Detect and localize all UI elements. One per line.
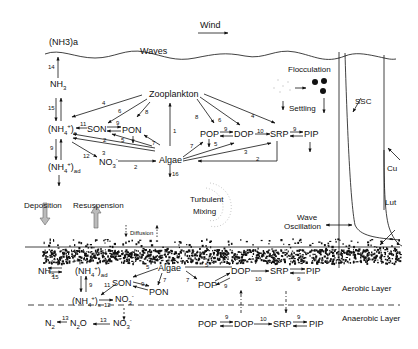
turbulent-label: Turbulent [190,195,224,204]
diffusion-label: Diffusion [130,230,153,237]
process-num: 12 [83,153,90,160]
sed-node-pon: PON [149,287,169,297]
process-num: 10 [255,276,262,283]
anaer-node-pip: PIP [309,319,324,329]
process-num: 4 [251,113,254,120]
resuspension-label: Resuspension [73,201,124,210]
process-num: 7 [152,140,155,147]
process-num: 13 [100,317,107,324]
process-num: 2 [134,164,137,171]
ssc-label: SSC [355,97,371,106]
process-num: 3 [102,150,105,157]
process-num: 5 [146,264,149,271]
process-num: 15 [52,274,59,281]
sed-node-pop: POP [198,280,217,290]
diagram-lines [0,0,418,349]
settling-label: Settling [289,104,316,113]
process-num: 5 [214,141,217,148]
anaer-node-no3: NO3- [113,318,132,328]
aerobic-layer-label: Aerobic Layer [342,284,391,293]
process-num: 4 [102,100,105,107]
current-label: Cu [387,164,397,173]
nutrient-cycle-diagram: (NH3)a Waves Wind Flocculation Settling … [0,0,418,349]
sed-node-pip: PIP [306,266,321,276]
process-num: 9 [293,126,296,133]
process-num: 3 [244,149,247,156]
sed-node-dop: DOP [231,266,251,276]
process-num: 5 [121,137,124,144]
process-num: 12 [104,302,111,309]
node-dop: DOP [234,129,254,139]
wind-label: Wind [200,20,221,30]
sed-node-nh4-s: (NH4+)s [72,296,101,306]
process-num: 9 [297,314,300,321]
process-num: 6 [218,117,221,124]
anaer-node-srp: SRP [273,319,292,329]
process-num: 1 [173,128,176,135]
process-num: 13 [62,315,69,322]
node-nh3: NH3 [50,79,66,89]
anaer-node-n2: N2 [45,318,55,328]
process-num: 8 [145,109,148,116]
process-num: 11 [80,121,86,128]
sed-node-no3: NO3- [115,294,134,304]
anaer-node-dop: DOP [234,319,254,329]
process-num: 9 [224,126,227,133]
anaer-node-pop: POP [198,319,217,329]
oscillation-label: Oscillation [284,222,321,231]
node-pop: POP [200,129,219,139]
process-num: 9 [224,283,227,290]
node-srp: SRP [270,129,289,139]
process-num: 14 [48,64,55,71]
process-num: 2 [103,137,106,144]
process-num: 2 [256,156,259,163]
deposition-label: Deposition [24,201,62,210]
sed-node-algae: Algae [158,263,181,273]
process-num: 9 [50,145,53,152]
node-son: SON [87,124,107,134]
process-num: 11 [104,282,110,289]
sed-node-nh4-ad: (NH4+)ad [75,266,108,276]
process-num: 7 [190,143,193,150]
process-num: 15 [48,105,55,112]
process-num: 8 [195,114,198,121]
sed-node-srp: SRP [270,266,289,276]
atmospheric-ammonia: (NH3)a [49,37,78,47]
node-zooplankton: Zooplankton [149,89,199,99]
wave-label: Wave [297,213,317,222]
process-num: 9 [116,120,119,127]
flocculation-label: Flocculation [288,65,331,74]
process-num: 9 [141,281,144,288]
sed-node-son: SON [112,278,132,288]
process-num: 10 [257,128,264,135]
anaerobic-layer-label: Anaerobic Layer [342,314,400,323]
node-nh4-ad: (NH4+)ad [48,162,81,172]
anaer-node-n2o: N2O [70,318,87,328]
process-num: 16 [172,171,179,178]
process-num: 9 [225,314,228,321]
lutocline-label: Lut [385,198,396,207]
waves-label: Waves [140,46,167,56]
node-nh4-s: (NH4+)s [48,124,77,134]
process-num: 9 [297,276,300,283]
mixing-label: Mixing [193,207,216,216]
node-pip: PIP [304,129,319,139]
process-num: 9 [89,282,92,289]
process-num: 7 [186,277,189,284]
process-num: 5 [205,262,208,269]
node-pon: PON [122,125,142,135]
node-no3: NO3- [99,157,118,167]
node-algae: Algae [159,155,182,165]
process-num: 10 [260,316,267,323]
process-num: 6 [118,108,121,115]
process-num: 7 [163,277,166,284]
